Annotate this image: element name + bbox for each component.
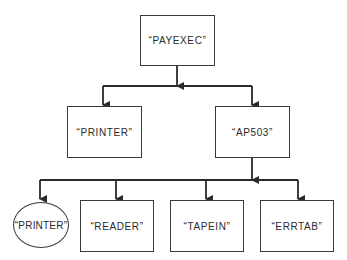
node-tapein: “TAPEIN” xyxy=(170,200,244,252)
node-label: “TAPEIN” xyxy=(184,221,231,232)
node-printer-ellipse: “PRINTER” xyxy=(13,202,69,248)
node-label: “READER” xyxy=(90,221,143,232)
node-label: “PRINTER” xyxy=(15,220,67,231)
node-label: “ERRTAB” xyxy=(271,221,322,232)
node-label: “PAYEXEC” xyxy=(149,35,207,46)
node-reader: “READER” xyxy=(80,200,154,252)
node-errtab: “ERRTAB” xyxy=(260,200,334,252)
hierarchy-diagram: “PAYEXEC” “PRINTER” “AP503” “PRINTER” “R… xyxy=(0,0,347,260)
node-label: “PRINTER” xyxy=(77,127,133,138)
node-printer: “PRINTER” xyxy=(67,106,142,158)
node-label: “AP503” xyxy=(232,127,273,138)
node-ap503: “AP503” xyxy=(215,106,290,158)
node-payexec: “PAYEXEC” xyxy=(140,15,215,66)
